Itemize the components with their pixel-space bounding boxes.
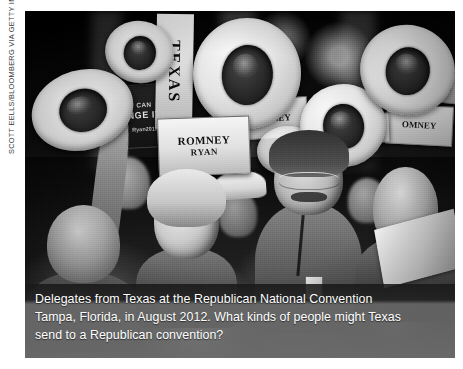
- photo-credit: SCOTT EELLS/BLOOMBERG VIA GETTY IMAGES: [4, 0, 20, 154]
- caption-line-2: Tampa, Florida, in August 2012. What kin…: [35, 308, 445, 326]
- caption-line-1: Delegates from Texas at the Republican N…: [35, 290, 445, 308]
- photo-figure: SCOTT EELLS/BLOOMBERG VIA GETTY IMAGES C…: [0, 0, 463, 369]
- photo-caption: Delegates from Texas at the Republican N…: [25, 284, 455, 358]
- photograph: CAN NGE IT Ryan2012 TEXAS OMN MNEY OMNEY…: [25, 11, 455, 358]
- caption-line-3: send to a Republican convention?: [35, 326, 445, 344]
